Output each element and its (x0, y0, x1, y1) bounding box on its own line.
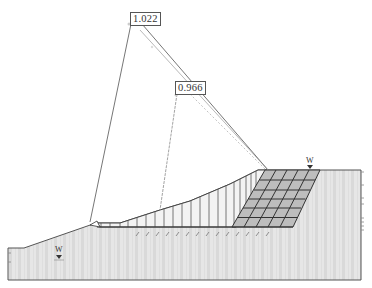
factor-of-safety-label-2: 0.966 (175, 81, 206, 95)
water-table-label-right: W (306, 157, 314, 165)
water-marker-right (307, 165, 313, 169)
factor-of-safety-label-1: 1.022 (130, 12, 161, 26)
slope-diagram: 1.022 0.966 W W (0, 0, 372, 288)
water-table-label-left: W (55, 246, 63, 254)
